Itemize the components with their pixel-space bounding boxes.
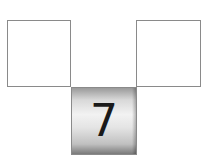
empty-box-right[interactable]: [136, 20, 201, 87]
number-tile[interactable]: 7: [71, 87, 137, 155]
empty-box-left[interactable]: [7, 20, 71, 87]
tile-digit: 7: [90, 99, 118, 143]
